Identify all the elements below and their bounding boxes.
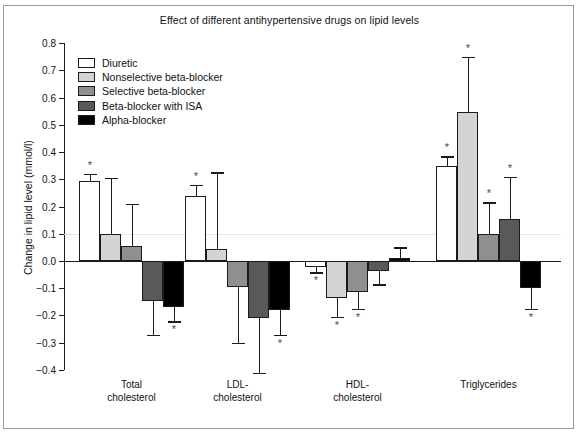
legend-item: Nonselective beta-blocker [78,70,223,84]
significance-marker: * [445,142,449,153]
error-bar-cap [253,373,266,375]
bar [121,246,142,261]
bar [457,112,478,261]
error-bar [111,178,112,234]
y-tick-label: −0.2 [28,310,56,321]
legend-swatch [78,58,95,68]
legend-swatch [78,115,95,125]
error-bar [217,172,218,248]
legend-label: Diuretic [102,57,138,69]
error-bar [510,177,511,219]
error-bar-cap [147,335,160,337]
error-bar [358,292,359,308]
x-axis-category-label: Triglycerides [416,378,561,391]
y-tick-label: 0.6 [28,93,56,104]
bar [478,234,499,261]
bar [389,258,410,261]
y-tick [59,370,64,371]
legend-item: Alpha-blocker [78,113,223,127]
error-bar [196,185,197,196]
significance-marker: * [529,312,533,323]
error-bar-cap [232,343,245,345]
error-bar-cap [394,247,407,249]
y-tick-label: 0.7 [28,65,56,76]
error-bar-cap [190,185,203,187]
bar [185,196,206,261]
chart-figure: Effect of different antihypertensive dru… [0,0,579,435]
significance-marker: * [508,163,512,174]
error-bar [379,271,380,285]
error-bar-cap [126,204,139,206]
significance-marker: * [194,171,198,182]
bar [326,261,347,298]
error-bar [489,202,490,233]
bar [347,261,368,292]
error-bar [259,318,260,373]
y-tick-label: −0.1 [28,283,56,294]
error-bar-cap [441,156,454,158]
legend-label: Alpha-blocker [102,114,166,126]
bar [142,261,163,301]
error-bar [174,307,175,321]
bar [206,249,227,261]
error-bar-cap [483,202,496,204]
bar [499,219,520,261]
error-bar-cap [462,57,475,59]
error-bar [337,298,338,317]
y-tick-label: 0.3 [28,174,56,185]
y-tick-label: 0.1 [28,229,56,240]
significance-marker: * [172,324,176,335]
y-tick-label: −0.4 [28,365,56,376]
error-bar-cap [373,284,386,286]
y-tick-label: 0.5 [28,120,56,131]
chart-legend: DiureticNonselective beta-blockerSelecti… [78,56,223,127]
bar [100,234,121,261]
bar [79,181,100,261]
bar [368,261,389,271]
error-bar [153,301,154,335]
error-bar [238,287,239,343]
bar [227,261,248,287]
significance-marker: * [314,275,318,286]
category-label-line2: cholesterol [285,391,430,404]
error-bar [280,310,281,335]
error-bar [132,204,133,246]
bar [269,261,290,310]
error-bar-cap [84,174,97,176]
legend-swatch [78,86,95,96]
y-tick-label: 0.4 [28,147,56,158]
bar [163,261,184,307]
y-tick-label: 0.0 [28,256,56,267]
significance-marker: * [278,338,282,349]
y-tick-label: 0.8 [28,38,56,49]
bar [248,261,269,318]
bar [520,261,541,288]
significance-marker: * [88,160,92,171]
significance-marker: * [335,320,339,331]
error-bar-cap [504,177,517,179]
significance-marker: * [487,188,491,199]
bar [436,166,457,261]
significance-marker: * [356,312,360,323]
legend-item: Diuretic [78,56,223,70]
x-axis-category-label: HDL-cholesterol [285,378,430,404]
y-tick-label: 0.2 [28,202,56,213]
legend-label: Selective beta-blocker [102,85,205,97]
y-tick-label: −0.3 [28,338,56,349]
error-bar-cap [105,178,118,180]
legend-label: Nonselective beta-blocker [102,71,223,83]
error-bar [468,57,469,113]
legend-item: Beta-blocker with ISA [78,99,223,113]
category-label-line1: HDL- [285,378,430,391]
significance-marker: * [466,43,470,54]
legend-item: Selective beta-blocker [78,84,223,98]
error-bar [531,288,532,308]
legend-label: Beta-blocker with ISA [102,100,202,112]
legend-swatch [78,101,95,111]
chart-title: Effect of different antihypertensive dru… [0,14,579,26]
legend-swatch [78,72,95,82]
error-bar-cap [211,172,224,174]
category-label-line1: Triglycerides [416,378,561,391]
